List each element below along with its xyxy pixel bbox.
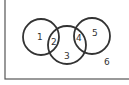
region-label-5: 5 xyxy=(92,28,98,38)
region-label-1: 1 xyxy=(37,32,43,42)
region-label-3: 3 xyxy=(64,51,70,61)
region-label-6: 6 xyxy=(104,57,110,67)
region-label-4: 4 xyxy=(76,33,82,43)
region-label-2: 2 xyxy=(51,37,57,47)
venn-diagram: 1 2 3 4 5 6 xyxy=(0,0,129,85)
